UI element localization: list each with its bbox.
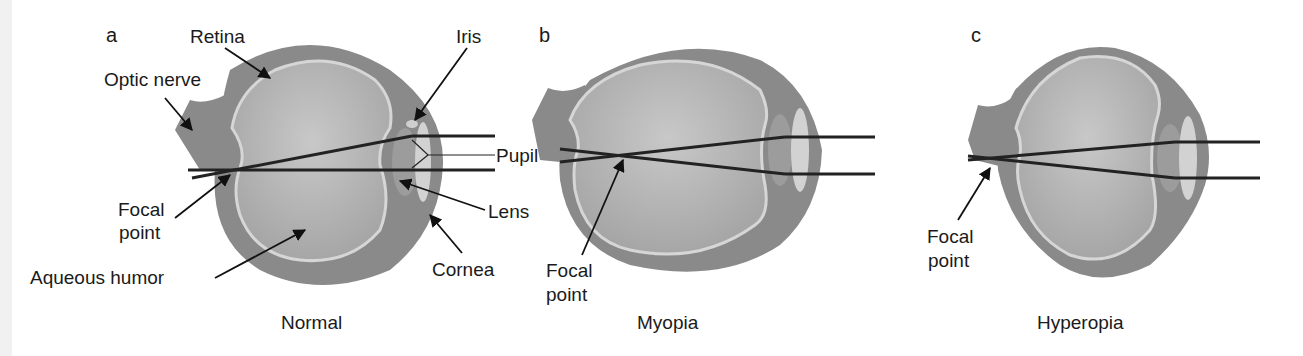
label-retina: Retina — [190, 26, 245, 47]
eye-diagram-canvas — [0, 0, 1303, 356]
label-cornea: Cornea — [432, 259, 494, 280]
label-focal-point-b-line2: point — [546, 284, 587, 305]
caption-hyperopia: Hyperopia — [1037, 312, 1124, 334]
eye-myopia — [532, 49, 875, 272]
label-iris: Iris — [456, 26, 481, 47]
eye-hyperopia — [968, 47, 1260, 278]
caption-myopia: Myopia — [637, 312, 698, 334]
panel-letter-c: c — [971, 24, 981, 47]
caption-normal: Normal — [281, 312, 342, 334]
cornea-shape — [791, 108, 809, 192]
label-pupil: Pupil — [496, 145, 538, 166]
label-focal-point-c-line1: Focal — [927, 226, 973, 247]
panel-letter-b: b — [539, 24, 550, 47]
iris-arrow — [415, 48, 467, 120]
label-optic-nerve: Optic nerve — [104, 69, 201, 90]
iris-shape — [406, 120, 418, 128]
vitreous-body — [1016, 57, 1159, 260]
eye-normal — [175, 45, 495, 285]
label-focal-point-a-line2: point — [119, 222, 160, 243]
label-lens: Lens — [488, 201, 529, 222]
panel-letter-a: a — [106, 24, 117, 47]
cornea-shape — [1179, 116, 1197, 200]
focal-point-arrow-c — [958, 168, 990, 220]
label-focal-point-a-line1: Focal — [118, 199, 164, 220]
cornea-arrow — [430, 215, 462, 253]
label-aqueous-humor: Aqueous humor — [30, 267, 164, 288]
vitreous-body — [232, 61, 391, 261]
label-focal-point-c-line2: point — [928, 250, 969, 271]
label-focal-point-b-line1: Focal — [546, 260, 592, 281]
